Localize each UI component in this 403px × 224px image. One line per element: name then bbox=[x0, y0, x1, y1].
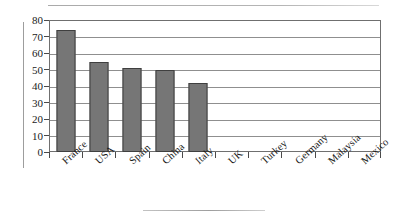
bar-slot bbox=[49, 20, 82, 152]
y-axis-tick-label: 20 bbox=[32, 114, 43, 125]
y-axis-tick-label: 50 bbox=[32, 64, 43, 75]
y-axis-tick-label: 0 bbox=[38, 147, 44, 158]
bar bbox=[189, 83, 208, 152]
y-axis-tick-label: 40 bbox=[32, 81, 43, 92]
y-axis-tick-label: 80 bbox=[32, 15, 43, 26]
y-axis-tick-label: 10 bbox=[32, 130, 43, 141]
bar-slot bbox=[182, 20, 215, 152]
bar-slot bbox=[149, 20, 182, 152]
bar bbox=[156, 70, 175, 153]
bar-slot bbox=[82, 20, 115, 152]
bar-slot bbox=[215, 20, 248, 152]
x-axis-category-labels: FranceUSASpainChinaItalyUKTurkeyGermanyM… bbox=[49, 156, 389, 216]
y-axis-tick-labels: 01020304050607080 bbox=[0, 20, 43, 152]
bottom-page-rule bbox=[143, 210, 265, 211]
bar bbox=[56, 30, 75, 152]
bar-series bbox=[49, 20, 381, 152]
bar-slot bbox=[281, 20, 314, 152]
bar-slot bbox=[115, 20, 148, 152]
bar bbox=[122, 68, 141, 152]
bar-slot bbox=[248, 20, 281, 152]
bar bbox=[89, 62, 108, 152]
y-axis-tick-label: 70 bbox=[32, 31, 43, 42]
y-axis-tick-label: 30 bbox=[32, 97, 43, 108]
top-page-rule bbox=[48, 5, 379, 6]
bar-chart-figure: 01020304050607080 FranceUSASpainChinaIta… bbox=[0, 0, 403, 224]
y-axis-tick-label: 60 bbox=[32, 48, 43, 59]
